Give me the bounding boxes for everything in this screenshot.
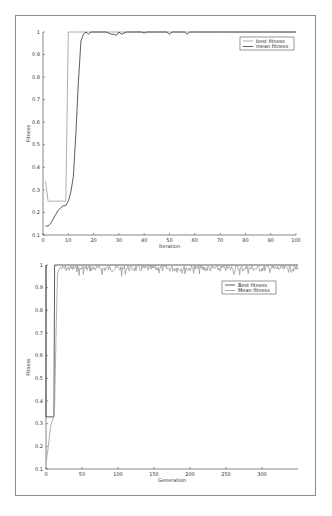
y-tick-label: 0.1 (32, 232, 40, 238)
y-tick-label: 0.3 (32, 187, 40, 193)
x-tick-label: 40 (141, 237, 147, 243)
y-tick-label: 1 (37, 29, 40, 35)
chart-iteration-fitness: 0.10.20.30.40.50.60.70.80.91010203040506… (25, 29, 301, 249)
x-tick-label: 10 (65, 237, 71, 243)
x-axis-label: Iteration (159, 243, 180, 249)
x-tick-label: 300 (257, 471, 267, 477)
y-tick-label: 0.6 (35, 352, 43, 358)
y-tick-label: 0.8 (32, 74, 40, 80)
legend-label: mean fitness (256, 43, 289, 49)
x-tick-label: 100 (113, 471, 123, 477)
x-axis-label: Generation (158, 477, 186, 483)
y-tick-label: 0.6 (32, 119, 40, 125)
y-tick-label: 0.5 (32, 141, 40, 147)
chart-generation-fitness: 0.10.20.30.40.50.60.70.80.91050100150200… (25, 262, 298, 483)
figure-canvas: 0.10.20.30.40.50.60.70.80.91010203040506… (0, 0, 332, 516)
y-tick-label: 0.9 (35, 284, 43, 290)
legend-label: Mean fitness (238, 287, 270, 293)
x-tick-label: 80 (242, 237, 248, 243)
y-tick-label: 0.7 (32, 96, 40, 102)
y-tick-label: 0.4 (35, 398, 43, 404)
x-tick-label: 60 (192, 237, 198, 243)
series-mean-fitness (46, 32, 296, 226)
x-tick-label: 30 (116, 237, 122, 243)
x-tick-label: 0 (44, 471, 47, 477)
y-tick-label: 0.4 (32, 164, 40, 170)
x-tick-label: 200 (185, 471, 195, 477)
y-tick-label: 0.5 (35, 375, 43, 381)
x-tick-label: 20 (90, 237, 96, 243)
y-tick-label: 0.3 (35, 420, 43, 426)
y-tick-label: 1 (40, 262, 43, 268)
x-tick-label: 250 (221, 471, 231, 477)
y-axis-label: Fitness (25, 124, 31, 142)
y-tick-label: 0.9 (32, 51, 40, 57)
y-tick-label: 0.8 (35, 307, 43, 313)
legend: best fitnessmean fitness (240, 37, 294, 50)
y-axis-label: Fitness (25, 358, 31, 376)
series-best-fitness (46, 32, 296, 201)
x-tick-label: 50 (79, 471, 85, 477)
axes: 0.10.20.30.40.50.60.70.80.91050100150200… (25, 262, 298, 483)
x-tick-label: 90 (268, 237, 274, 243)
series-mean-fitness (46, 265, 298, 462)
y-tick-label: 0.2 (32, 209, 40, 215)
legend: Best fitnessMean fitness (222, 281, 276, 294)
x-tick-label: 0 (41, 237, 44, 243)
y-tick-label: 0.2 (35, 443, 43, 449)
y-tick-label: 0.1 (35, 466, 43, 472)
x-tick-label: 100 (291, 237, 301, 243)
y-tick-label: 0.7 (35, 330, 43, 336)
x-tick-label: 70 (217, 237, 223, 243)
